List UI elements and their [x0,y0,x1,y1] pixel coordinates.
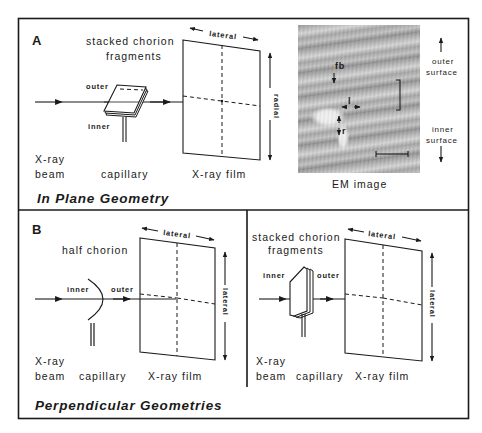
sample-label-line2: fragments [106,50,162,62]
film-top-axis-label: lateral [368,229,397,241]
half-chorion-label: half chorion [62,244,128,256]
inner-label: inner [67,285,89,294]
capillary-label: capillary [296,370,344,382]
inner-surface-line1: inner [432,125,454,134]
sample-label-line2: fragments [268,244,324,256]
xray-film-icon [345,239,422,361]
sample-label-line1: stacked chorion [252,231,341,243]
beam-label-line2: beam [35,370,65,382]
em-annotations: fb l r [334,61,408,157]
em-caption: EM image [332,178,387,190]
capillary-icon [302,314,305,337]
bracket-icon [396,80,400,110]
panel-a-title: In Plane Geometry [37,191,170,206]
outer-label: outer [111,285,134,294]
l-label: l [348,96,351,106]
panel-a: A stacked chorion fragments outer inner [32,28,458,206]
fb-label: fb [335,61,345,71]
r-label: r [342,126,346,136]
outer-surface-line2: surface [426,68,458,77]
capillary-label: capillary [101,168,149,180]
film-label: X-ray film [355,370,409,382]
panel-b-left: B half chorion inner outer lateral later… [32,222,230,382]
inner-label: inner [88,122,110,131]
panel-a-letter: A [32,33,42,48]
outer-label: outer [317,271,340,280]
stacked-fragments-icon [290,267,313,318]
film-label: X-ray film [148,370,202,382]
beam-label-line1: X-ray [35,355,65,367]
inner-surface-line2: surface [426,136,458,145]
film-label: X-ray film [192,168,246,180]
panel-b-letter: B [32,222,41,237]
beam-label-line1: X-ray [35,153,65,165]
beam-label-line1: X-ray [256,355,286,367]
panel-b-title: Perpendicular Geometries [35,398,222,413]
film-side-axis-label: radial [272,94,281,119]
inner-label: inner [263,271,285,280]
xray-film-icon [183,40,260,160]
capillary-icon [91,323,94,346]
outer-label: outer [86,82,109,91]
beam-label-line2: beam [256,370,286,382]
sample-label-line1: stacked chorion [86,35,175,47]
capillary-label: capillary [79,370,127,382]
figure-canvas: A stacked chorion fragments outer inner [0,0,482,433]
stacked-fragments-icon [104,85,148,117]
film-side-axis-label: lateral [428,290,437,318]
beam-label-line2: beam [35,168,65,180]
outer-surface-line1: outer [432,57,454,66]
panel-b-right: stacked chorion fragments inner outer la… [252,229,437,382]
film-top-axis-label: lateral [209,29,238,41]
capillary-icon [123,117,126,142]
film-side-axis-label: lateral [221,288,230,316]
film-top-axis-label: lateral [163,228,192,240]
